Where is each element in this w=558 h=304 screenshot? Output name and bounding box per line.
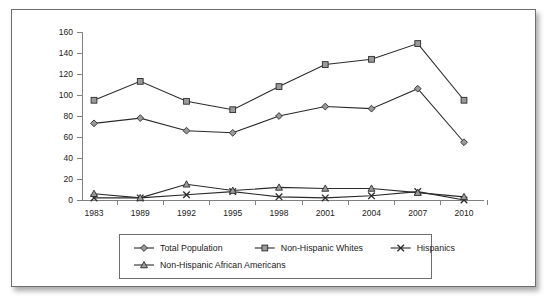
- data-point-diamond: [229, 129, 236, 136]
- legend-label: Hispanics: [417, 243, 456, 253]
- series-non-hispanic-whites: [91, 41, 467, 113]
- y-axis-tick-label: 100: [59, 90, 73, 100]
- line-chart: 0204060801001201401601983198919921995199…: [12, 10, 537, 288]
- y-axis-tick-label: 40: [64, 153, 74, 163]
- x-axis: 198319891992199519982001200420072010: [82, 200, 487, 218]
- y-axis: 020406080100120140160: [59, 27, 82, 205]
- plot-area: 0204060801001201401601983198919921995199…: [12, 10, 537, 288]
- y-axis-tick-label: 0: [68, 195, 73, 205]
- x-axis-tick-label: 1989: [131, 208, 150, 218]
- data-point-square: [230, 107, 236, 113]
- data-point-square: [415, 41, 421, 47]
- chart-legend: Total PopulationNon-Hispanic WhitesHispa…: [119, 234, 455, 278]
- data-point-diamond: [183, 127, 190, 134]
- data-point-triangle: [91, 190, 98, 196]
- series-line: [94, 44, 464, 110]
- y-axis-tick-label: 20: [64, 174, 74, 184]
- x-axis-tick-label: 2010: [455, 208, 474, 218]
- y-axis-tick-label: 140: [59, 48, 73, 58]
- data-point-triangle: [183, 181, 190, 187]
- data-point-square: [276, 84, 282, 90]
- chart-screenshot: 0204060801001201401601983198919921995199…: [0, 0, 558, 304]
- data-point-square: [461, 97, 467, 103]
- legend-label: Total Population: [160, 243, 223, 253]
- data-point-square: [369, 56, 375, 62]
- x-axis-tick-label: 1995: [223, 208, 242, 218]
- y-axis-tick-label: 60: [64, 132, 74, 142]
- data-point-square: [322, 62, 328, 68]
- x-axis-tick-label: 1998: [270, 208, 289, 218]
- x-axis-tick-label: 1983: [85, 208, 104, 218]
- data-point-diamond: [91, 120, 98, 127]
- x-axis-tick-label: 1992: [177, 208, 196, 218]
- data-point-square: [91, 97, 97, 103]
- data-point-diamond: [368, 105, 375, 112]
- data-point-square: [184, 98, 190, 104]
- x-axis-tick-label: 2007: [408, 208, 427, 218]
- y-axis-tick-label: 160: [59, 27, 73, 37]
- series-total-population: [91, 85, 468, 145]
- chart-card: 0204060801001201401601983198919921995199…: [11, 9, 536, 287]
- x-axis-tick-label: 2004: [362, 208, 381, 218]
- legend-label: Non-Hispanic Whites: [281, 243, 364, 253]
- y-axis-tick-label: 120: [59, 69, 73, 79]
- data-point-diamond: [276, 113, 283, 120]
- data-point-square: [262, 245, 268, 251]
- y-axis-tick-label: 80: [64, 111, 74, 121]
- x-axis-tick-label: 2001: [316, 208, 335, 218]
- data-point-diamond: [322, 103, 329, 110]
- data-point-diamond: [137, 115, 144, 122]
- legend-label: Non-Hispanic African Americans: [160, 260, 286, 270]
- series-line: [94, 192, 464, 200]
- data-point-square: [137, 78, 143, 84]
